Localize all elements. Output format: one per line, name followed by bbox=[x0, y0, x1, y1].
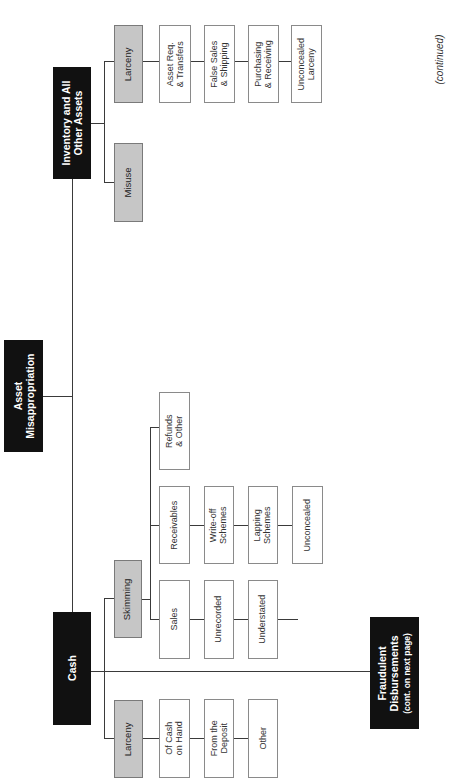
inventory-connector bbox=[91, 123, 104, 124]
false-sales-shipping-label: False Sales & Shipping bbox=[209, 40, 230, 87]
asset-req-transfers-box: Asset Req. & Transfers bbox=[159, 25, 191, 103]
skimming-connector bbox=[104, 598, 114, 599]
fraudulent-note: (cont. on next page) bbox=[402, 633, 412, 714]
fraudulent-disbursements-label: Fraudulent Disbursements (cont. on next … bbox=[376, 633, 413, 714]
false-sales-shipping-box: False Sales & Shipping bbox=[204, 25, 235, 103]
unconcealed-larceny-box: Unconcealed Larceny bbox=[291, 25, 322, 103]
other-label: Other bbox=[258, 727, 268, 750]
sales-box: Sales bbox=[159, 580, 190, 659]
misuse-label: Misuse bbox=[123, 167, 134, 197]
refunds-connector bbox=[150, 427, 159, 428]
skimming-label: Skimming bbox=[123, 578, 134, 620]
cash-box: Cash bbox=[53, 612, 91, 725]
from-the-deposit-box: From the Deposit bbox=[204, 699, 234, 778]
unconcealed-larceny-label: Unconcealed Larceny bbox=[296, 38, 317, 91]
purchasing-receiving-label: Purchasing & Receiving bbox=[253, 40, 274, 88]
inventory-label: Inventory and All Other Assets bbox=[60, 81, 84, 166]
refunds-other-box: Refunds & Other bbox=[159, 392, 190, 470]
unconcealed-box: Unconcealed bbox=[292, 486, 323, 564]
skimming-box: Skimming bbox=[114, 560, 142, 638]
write-off-schemes-box: Write-off Schemes bbox=[204, 486, 234, 564]
understated-box: Understated bbox=[248, 580, 278, 659]
inventory-box: Inventory and All Other Assets bbox=[53, 67, 91, 179]
inv-misuse-connector bbox=[104, 182, 114, 183]
sales-label: Sales bbox=[169, 608, 179, 631]
lapping-schemes-label: Lapping Schemes bbox=[253, 506, 274, 544]
skimming-split bbox=[150, 427, 151, 619]
lapping-schemes-box: Lapping Schemes bbox=[248, 486, 278, 564]
cash-larceny-label: Larceny bbox=[123, 722, 134, 756]
purchasing-receiving-box: Purchasing & Receiving bbox=[248, 25, 279, 103]
cash-label: Cash bbox=[66, 656, 78, 682]
from-the-deposit-label: From the Deposit bbox=[209, 720, 230, 756]
asset-misappropriation-label: Asset Misappropriation bbox=[11, 353, 35, 438]
inv-larceny-connector bbox=[104, 61, 114, 62]
cash-to-fraud-line bbox=[91, 671, 370, 672]
unconcealed-label: Unconcealed bbox=[302, 499, 312, 552]
inventory-larceny-label: Larceny bbox=[123, 47, 134, 81]
write-off-schemes-label: Write-off Schemes bbox=[209, 506, 230, 544]
skimming-out bbox=[142, 599, 150, 600]
of-cash-on-hand-label: Of Cash on Hand bbox=[164, 721, 185, 755]
cash-larceny-connector bbox=[104, 738, 114, 739]
refunds-other-label: Refunds & Other bbox=[164, 414, 185, 448]
unrecorded-label: Unrecorded bbox=[214, 596, 224, 643]
asset-req-transfers-label: Asset Req. & Transfers bbox=[165, 41, 186, 87]
of-cash-on-hand-box: Of Cash on Hand bbox=[159, 699, 190, 778]
other-box: Other bbox=[248, 699, 278, 778]
continued-note: (continued) bbox=[434, 34, 445, 84]
receivables-box: Receivables bbox=[159, 486, 190, 564]
unrecorded-box: Unrecorded bbox=[204, 580, 234, 659]
asset-misappropriation-box: Asset Misappropriation bbox=[4, 340, 43, 452]
cash-split bbox=[104, 598, 105, 738]
root-connector bbox=[43, 396, 72, 397]
fraudulent-disbursements-box: Fraudulent Disbursements (cont. on next … bbox=[370, 617, 419, 729]
misuse-box: Misuse bbox=[114, 143, 143, 222]
understated-label: Understated bbox=[258, 595, 268, 644]
fraudulent-title: Fraudulent Disbursements bbox=[376, 635, 400, 711]
trunk-line bbox=[72, 179, 73, 612]
inventory-split bbox=[104, 61, 105, 183]
cash-larceny-box: Larceny bbox=[114, 700, 143, 778]
receivables-label: Receivables bbox=[169, 500, 179, 549]
inventory-larceny-box: Larceny bbox=[114, 25, 143, 103]
